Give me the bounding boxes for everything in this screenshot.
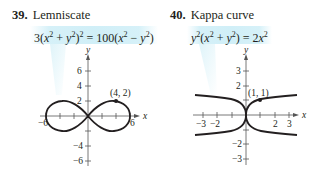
x-tick-label: −2	[210, 119, 220, 129]
x-tick-label: −3	[196, 119, 206, 129]
x-tick-label: 3	[287, 119, 292, 129]
figure-kappa-curve: 40.Kappa curve y2(x2 + y2) = 2x2 (1, 1)	[163, 0, 326, 174]
y-tick-label: −6	[73, 156, 83, 166]
y-axis-label: y	[85, 45, 91, 55]
highlight-beam	[199, 44, 217, 95]
y-tick-label: 3	[236, 66, 241, 76]
y-tick-label: −2	[232, 139, 242, 149]
x-axis-arrow-icon	[293, 113, 299, 117]
highlight-point	[258, 98, 262, 102]
x-axis-label: x	[301, 110, 307, 120]
point-label: (1, 1)	[248, 88, 269, 99]
x-tick-label: 6	[130, 118, 135, 128]
y-tick-label: 2	[77, 96, 82, 106]
y-tick-label: −4	[73, 141, 83, 151]
y-tick-label: 2	[236, 81, 241, 91]
y-tick-label: 6	[77, 66, 82, 76]
x-axis-label: x	[142, 111, 148, 121]
x-tick-label: −6	[38, 118, 48, 128]
lemniscate-graph: (4, 2) −6 6 6 4 2 −4 −6 x y	[0, 0, 163, 174]
point-label: (4, 2)	[110, 88, 131, 99]
highlight-point	[114, 99, 118, 103]
y-axis-label: y	[243, 45, 249, 55]
figure-lemniscate: 39.Lemniscate 3(x2 + y2)2 = 100(x2 − y2)…	[0, 0, 163, 174]
x-tick-label: 2	[273, 119, 278, 129]
y-tick-label: −3	[232, 154, 242, 164]
x-axis-arrow-icon	[134, 114, 140, 118]
y-tick-label: 4	[77, 81, 82, 91]
kappa-graph: (1, 1) −3 −2 2 3 3 2 −2 −3 x y	[163, 0, 326, 174]
highlight-beam	[50, 44, 66, 95]
